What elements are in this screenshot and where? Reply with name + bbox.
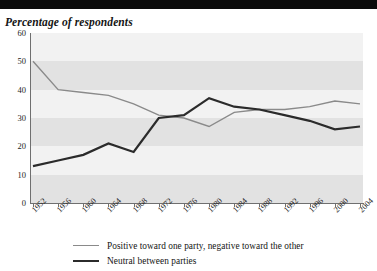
- legend-line-swatch: [73, 260, 99, 262]
- series-lines: [30, 33, 363, 203]
- legend-item: Positive toward one party, negative towa…: [0, 238, 377, 253]
- y-axis-tick-label: 40: [2, 85, 26, 94]
- y-axis-tick-label: 0: [2, 199, 26, 208]
- legend-label: Positive toward one party, negative towa…: [107, 241, 304, 251]
- page-top-rule: [0, 0, 377, 9]
- chart-plot-area: 0102030405060 19521956196019641968197219…: [0, 28, 377, 210]
- legend-label: Neutral between parties: [107, 256, 196, 266]
- y-axis-tick-label: 10: [2, 170, 26, 179]
- chart-legend: Positive toward one party, negative towa…: [0, 238, 377, 268]
- chart-title: Percentage of respondents: [5, 16, 133, 28]
- legend-item: Neutral between parties: [0, 253, 377, 268]
- series-line: [33, 61, 360, 126]
- series-line: [33, 98, 360, 166]
- y-axis-tick-label: 30: [2, 114, 26, 123]
- y-axis-tick-label: 60: [2, 29, 26, 38]
- y-axis-tick-label: 50: [2, 57, 26, 66]
- legend-line-swatch: [73, 245, 99, 246]
- y-axis-tick-label: 20: [2, 142, 26, 151]
- y-axis-labels: 0102030405060: [0, 33, 26, 203]
